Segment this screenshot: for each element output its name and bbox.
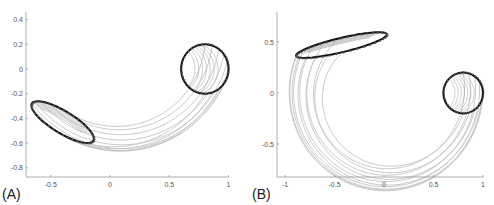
contour-marker [228, 68, 230, 70]
contour-marker [191, 88, 193, 90]
contour-marker [191, 48, 193, 50]
contour-marker [215, 46, 217, 48]
contour-marker [93, 138, 95, 140]
contour-marker [62, 134, 64, 136]
contour-marker [475, 108, 477, 110]
contour-marker [322, 56, 324, 58]
contour-marker [71, 139, 73, 141]
x-tick-label: -0.5 [45, 181, 57, 188]
streamline [41, 54, 224, 140]
x-tick-label: 0.5 [164, 181, 174, 188]
contour-marker [48, 103, 50, 105]
contour-marker [201, 43, 203, 45]
contour-marker [447, 80, 449, 82]
contour-marker [92, 134, 94, 136]
y-tick-label: 0 [270, 90, 274, 97]
contour-marker [449, 106, 451, 108]
streamline [314, 38, 465, 169]
contour-marker [477, 106, 479, 108]
contour-marker [194, 90, 196, 92]
y-tick-label: -0.4 [11, 115, 23, 122]
contour-marker [308, 47, 310, 49]
contour-marker [481, 101, 483, 103]
contour-marker [52, 128, 54, 130]
contour-marker [218, 88, 220, 90]
contour-marker [386, 35, 388, 37]
contour-marker [339, 38, 341, 40]
contour-marker [483, 92, 485, 94]
y-tick-label: 0.5 [264, 39, 274, 46]
streamline [322, 52, 463, 166]
contour-marker [443, 95, 445, 97]
contour-marker [197, 44, 199, 46]
contour-marker [228, 64, 230, 66]
contour-marker [313, 45, 315, 47]
contour-marker [188, 50, 190, 52]
circle-inner-curve [450, 79, 455, 107]
contour-marker [445, 101, 447, 103]
contour-marker [366, 33, 368, 35]
contour-marker [347, 36, 349, 38]
contour-marker [183, 56, 185, 58]
figure: -0.500.510.40.20-0.2-0.4-0.6-0.8 (A) -1-… [0, 0, 494, 205]
contour-marker [326, 41, 328, 43]
panel-b-label: (B) [252, 186, 271, 202]
panel-a-streamlines [32, 44, 229, 151]
contour-marker [205, 92, 207, 94]
contour-marker [377, 32, 379, 34]
contour-marker [443, 92, 445, 94]
contour-marker [182, 60, 184, 62]
contour-marker [451, 75, 453, 77]
streamline [292, 57, 482, 189]
contour-marker [363, 46, 365, 48]
contour-marker [93, 136, 95, 138]
contour-marker [469, 111, 471, 113]
contour-marker [181, 68, 183, 70]
contour-marker [454, 110, 456, 112]
contour-marker [298, 57, 300, 59]
contour-marker [296, 56, 298, 58]
contour-marker [181, 72, 183, 74]
contour-marker [224, 53, 226, 55]
contour-marker [84, 142, 86, 144]
y-tick-label: -0.2 [11, 90, 23, 97]
contour-marker [310, 57, 312, 59]
contour-marker [472, 110, 474, 112]
target-ellipse-contour [31, 101, 93, 143]
contour-marker [32, 109, 34, 111]
contour-marker [226, 56, 228, 58]
contour-marker [482, 95, 484, 97]
contour-marker [218, 48, 220, 50]
panel-b-axes: -1-0.500.510.50-0.5 [262, 12, 485, 188]
x-tick-label: -1 [282, 181, 288, 188]
contour-marker [40, 101, 42, 103]
contour-marker [85, 125, 87, 127]
y-tick-label: -0.8 [11, 164, 23, 171]
contour-marker [350, 50, 352, 52]
contour-marker [77, 118, 79, 120]
contour-marker [451, 108, 453, 110]
contour-marker [212, 91, 214, 93]
contour-marker [384, 32, 386, 34]
panel-a: -0.500.510.40.20-0.2-0.4-0.6-0.8 (A) [2, 12, 231, 202]
contour-marker [221, 50, 223, 52]
contour-marker [208, 92, 210, 94]
contour-marker [185, 53, 187, 55]
y-tick-label: 0.4 [13, 16, 23, 23]
contour-marker [466, 72, 468, 74]
contour-marker [40, 119, 42, 121]
contour-marker [475, 75, 477, 77]
circle-inner-curve [455, 75, 464, 111]
x-tick-label: -0.5 [328, 181, 340, 188]
contour-marker [463, 71, 465, 73]
contour-marker [481, 82, 483, 84]
contour-marker [479, 80, 481, 82]
contour-marker [35, 101, 37, 103]
contour-marker [374, 42, 376, 44]
contour-marker [87, 142, 89, 144]
contour-marker [212, 44, 214, 46]
contour-marker [221, 85, 223, 87]
contour-marker [460, 112, 462, 114]
contour-marker [303, 49, 305, 51]
contour-marker [444, 85, 446, 87]
